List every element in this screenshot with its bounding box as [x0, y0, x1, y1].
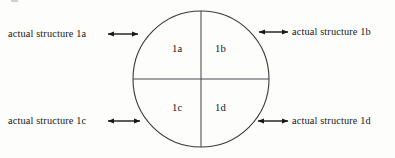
- callout-label-1c: actual structure 1c: [8, 116, 86, 126]
- callout-label-1d: actual structure 1d: [292, 116, 371, 126]
- figure-root: 1a 1b 1c 1d actual structure 1a actual s…: [0, 0, 395, 158]
- quadrant-label-1c: 1c: [172, 103, 182, 114]
- quadrant-label-1b: 1b: [215, 44, 226, 55]
- diagram-canvas: [0, 0, 395, 158]
- quadrant-label-1a: 1a: [172, 44, 182, 55]
- quadrant-label-1d: 1d: [215, 103, 226, 114]
- callout-label-1a: actual structure 1a: [8, 29, 86, 39]
- callout-label-1b: actual structure 1b: [292, 27, 371, 37]
